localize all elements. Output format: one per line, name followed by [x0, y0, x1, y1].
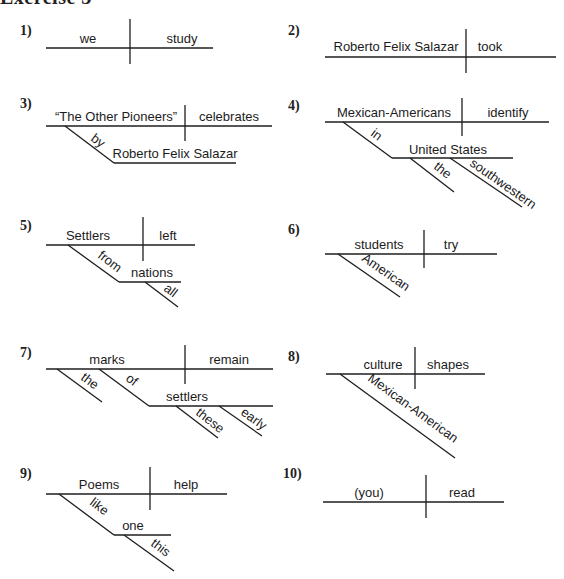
object-modifier-word: all	[161, 280, 181, 300]
object-word: nations	[131, 265, 173, 280]
preposition-word: by	[88, 130, 108, 151]
diagram-10: 10) (you) read	[283, 466, 504, 518]
diagram-number: 8)	[288, 349, 300, 365]
subject-word: Mexican-Americans	[337, 105, 452, 120]
diagram-canvas: 1) we study 2) Roberto Felix Salazar too…	[0, 0, 564, 579]
diagram-number: 2)	[288, 23, 300, 39]
diagram-3: 3) “The Other Pioneers” celebrates by Ro…	[20, 96, 272, 163]
object-modifier-word: early	[238, 404, 270, 433]
diagram-number: 5)	[20, 218, 32, 234]
subject-word: marks	[89, 352, 125, 367]
diagram-number: 6)	[288, 222, 300, 238]
diagram-number: 1)	[20, 23, 32, 39]
diagram-number: 9)	[20, 466, 32, 482]
subject-word: Roberto Felix Salazar	[334, 39, 460, 54]
diagram-5: 5) Settlers left from nations all	[20, 217, 195, 307]
object-modifier-word: southwestern	[467, 155, 539, 212]
diagram-number: 4)	[288, 98, 300, 114]
preposition-line	[65, 126, 114, 163]
diagram-4: 4) Mexican-Americans identify in United …	[288, 98, 549, 212]
diagram-number: 7)	[20, 345, 32, 361]
diagram-number: 10)	[283, 466, 302, 482]
subject-word: students	[354, 237, 404, 252]
subject-modifier-word: the	[78, 369, 101, 392]
verb-word: took	[478, 39, 503, 54]
subject-word: (you)	[354, 485, 384, 500]
verb-word: help	[174, 477, 199, 492]
subject-word: culture	[363, 357, 402, 372]
object-modifier-word: the	[431, 159, 454, 182]
verb-word: try	[444, 237, 459, 252]
preposition-line	[59, 494, 114, 535]
subject-word: Poems	[79, 477, 120, 492]
verb-word: read	[449, 485, 475, 500]
preposition-word: in	[368, 125, 385, 143]
diagram-7: 7) marks remain the of settlers these ea…	[20, 345, 273, 438]
preposition-word: like	[87, 494, 112, 518]
preposition-line	[99, 369, 149, 406]
subject-modifier-word: Mexican-American	[365, 370, 461, 445]
subject-word: Settlers	[66, 228, 111, 243]
exercise-sheet: Exercise 3 1) we study 2) Roberto Felix …	[0, 0, 564, 579]
subject-word: we	[79, 31, 97, 46]
diagram-6: 6) students try American	[288, 222, 497, 297]
subject-word: “The Other Pioneers”	[55, 109, 177, 124]
diagram-number: 3)	[20, 96, 32, 112]
object-modifier-word: this	[148, 535, 174, 559]
preposition-word: from	[95, 247, 125, 275]
verb-word: study	[166, 31, 198, 46]
object-word: one	[122, 518, 144, 533]
diagram-2: 2) Roberto Felix Salazar took	[288, 23, 556, 73]
object-modifier-word: these	[193, 405, 227, 436]
verb-word: left	[159, 228, 177, 243]
object-word: settlers	[166, 389, 208, 404]
verb-word: remain	[209, 352, 249, 367]
verb-word: identify	[487, 105, 529, 120]
verb-word: celebrates	[199, 109, 259, 124]
diagram-8: 8) culture shapes Mexican-American	[288, 347, 485, 458]
preposition-line	[343, 122, 392, 158]
verb-word: shapes	[427, 357, 469, 372]
object-word: Roberto Felix Salazar	[113, 146, 239, 161]
diagram-1: 1) we study	[20, 19, 213, 64]
preposition-word: of	[123, 370, 141, 389]
diagram-9: 9) Poems help like one this	[20, 466, 227, 571]
